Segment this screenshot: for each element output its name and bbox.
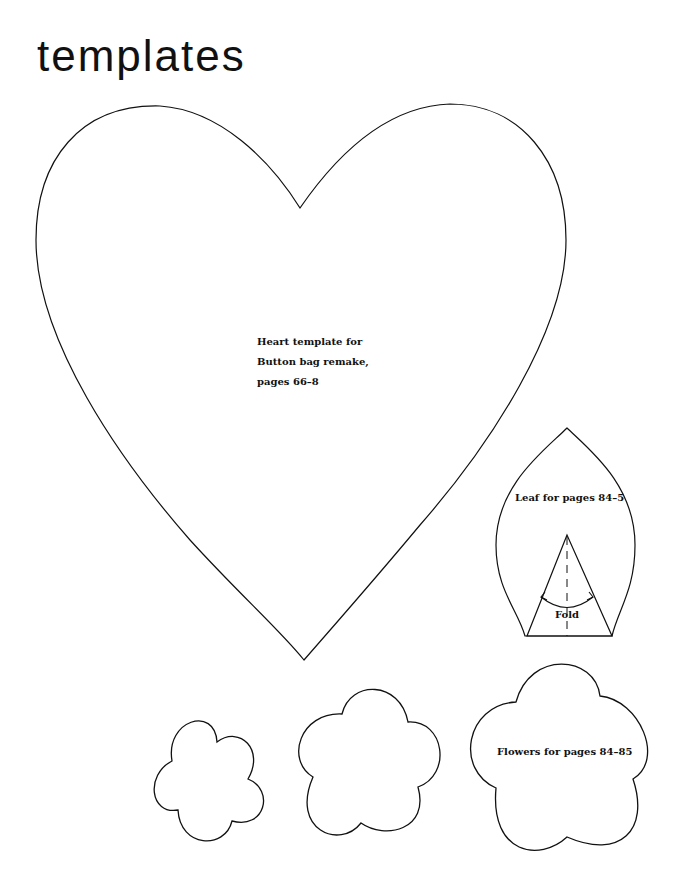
- leaf-outline: [496, 428, 635, 636]
- fold-label: Fold: [555, 609, 579, 620]
- flower-medium-outline: [299, 689, 440, 835]
- heart-label-line-3: pages 66–8: [257, 372, 369, 392]
- flower-large-outline: [471, 664, 648, 850]
- heart-label-line-2: Button bag remake,: [257, 352, 369, 372]
- fold-arrow-right-icon: [587, 592, 593, 600]
- flower-small-outline: [154, 721, 263, 841]
- fold-triangle: [527, 535, 612, 636]
- heart-label-line-1: Heart template for: [257, 332, 369, 352]
- flowers-template-label: Flowers for pages 84–85: [497, 746, 632, 757]
- leaf-template-label: Leaf for pages 84–5: [515, 492, 624, 503]
- heart-template-label: Heart template for Button bag remake, pa…: [257, 332, 369, 392]
